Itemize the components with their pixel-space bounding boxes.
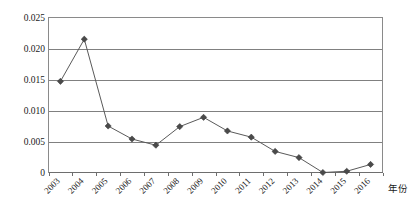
y-axis-tick-label: 0.025: [24, 13, 46, 23]
y-axis-tick-label: 0.020: [24, 44, 46, 54]
chart-background: [0, 0, 418, 211]
x-axis-title: 年份: [388, 183, 408, 194]
line-chart: 00.0050.0100.0150.0200.025 2003200420052…: [0, 0, 418, 211]
y-axis-tick-label: 0.010: [24, 106, 46, 116]
y-axis-tick-label: 0.015: [24, 75, 46, 85]
y-axis-tick-label: 0.005: [24, 137, 46, 147]
y-axis-tick-label: 0: [40, 168, 45, 178]
chart-canvas: 00.0050.0100.0150.0200.025 2003200420052…: [0, 0, 418, 211]
